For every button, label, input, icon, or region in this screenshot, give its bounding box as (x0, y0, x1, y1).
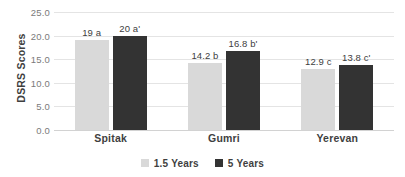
x-axis-category-label: Spitak (56, 132, 166, 148)
bar[interactable]: 13.8 c' (339, 65, 373, 130)
x-axis-category-labels: SpitakGumriYerevan (54, 132, 394, 148)
y-axis-tick-label: 25.0 (31, 7, 50, 18)
bar-groups: 19 a20 a'14.2 b16.8 b'12.9 c13.8 c' (54, 12, 394, 130)
bar[interactable]: 16.8 b' (226, 51, 260, 130)
bar-group: 19 a20 a' (56, 12, 166, 130)
bar-slot: 20 a' (113, 12, 147, 130)
legend-item[interactable]: 5 Years (215, 158, 264, 169)
bar-slot: 12.9 c (301, 12, 335, 130)
y-axis-tick-label: 0.0 (36, 125, 50, 136)
bar-value-label: 12.9 c (305, 56, 331, 67)
bar-chart: DSRS Scores 0.05.010.015.020.025.0 19 a2… (0, 0, 405, 177)
legend-label: 5 Years (228, 158, 264, 169)
axis-baseline (54, 130, 394, 131)
bar[interactable]: 20 a' (113, 36, 147, 130)
bar-value-label: 19 a (82, 27, 101, 38)
bar-slot: 19 a (75, 12, 109, 130)
y-axis-tick-label: 15.0 (31, 54, 50, 65)
y-axis-tick-labels: 0.05.010.015.020.025.0 (14, 12, 50, 130)
bar-slot: 16.8 b' (226, 12, 260, 130)
x-axis-category-label: Gumri (169, 132, 279, 148)
bar-value-label: 13.8 c' (342, 52, 370, 63)
y-axis-tick-label: 20.0 (31, 30, 50, 41)
plot-area: 19 a20 a'14.2 b16.8 b'12.9 c13.8 c' (54, 12, 394, 130)
bar-group: 14.2 b16.8 b' (169, 12, 279, 130)
x-axis-category-label: Yerevan (282, 132, 392, 148)
y-axis-tick-label: 5.0 (36, 101, 50, 112)
legend-item[interactable]: 1.5 Years (141, 158, 199, 169)
bar-value-label: 20 a' (119, 23, 140, 34)
legend-swatch-icon (215, 159, 223, 167)
bar[interactable]: 19 a (75, 40, 109, 130)
legend-label: 1.5 Years (154, 158, 199, 169)
bar-slot: 13.8 c' (339, 12, 373, 130)
chart-legend: 1.5 Years5 Years (0, 155, 405, 171)
bar[interactable]: 12.9 c (301, 69, 335, 130)
legend-swatch-icon (141, 159, 149, 167)
bar[interactable]: 14.2 b (188, 63, 222, 130)
y-axis-tick-label: 10.0 (31, 77, 50, 88)
bar-value-label: 16.8 b' (229, 38, 258, 49)
bar-value-label: 14.2 b (191, 50, 218, 61)
bar-group: 12.9 c13.8 c' (282, 12, 392, 130)
bar-slot: 14.2 b (188, 12, 222, 130)
